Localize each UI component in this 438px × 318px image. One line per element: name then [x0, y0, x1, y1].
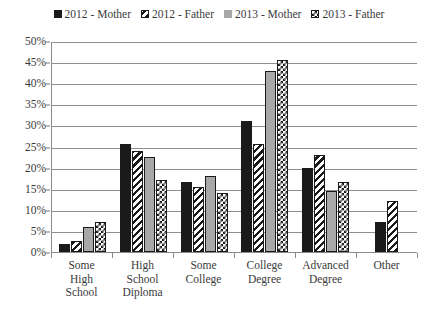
x-axis-category-line: Degree — [235, 273, 294, 287]
legend-swatch-icon — [311, 10, 319, 18]
y-tick-label: 50% — [25, 36, 46, 48]
x-axis-category-label: Other — [356, 259, 417, 300]
x-tick-mark — [51, 253, 52, 258]
legend-label: 2012 - Father — [152, 8, 214, 20]
x-axis-category-label: HighSchoolDiploma — [112, 259, 173, 300]
bar[interactable] — [302, 168, 313, 252]
bar[interactable] — [217, 193, 228, 252]
bar-group — [234, 42, 295, 252]
x-axis-category-line: College — [174, 273, 233, 287]
y-tick-label: 40% — [25, 78, 46, 90]
y-tick-mark — [46, 168, 50, 169]
legend-item-1[interactable]: 2012 - Mother — [54, 8, 131, 20]
y-tick-label: 20% — [25, 163, 46, 175]
x-axis-category-line: College — [235, 259, 294, 273]
legend-item-3[interactable]: 2013 - Mother — [224, 8, 301, 20]
bar-group — [174, 42, 235, 252]
x-axis-category-line: High — [52, 273, 111, 287]
legend-swatch-icon — [141, 10, 149, 18]
bars-layer — [52, 42, 417, 252]
bar-chart: 2012 - Mother2012 - Father2013 - Mother2… — [0, 0, 438, 318]
bar-group — [295, 42, 356, 252]
legend-swatch-icon — [224, 10, 232, 18]
y-axis: 50%45%40%35%30%25%20%15%10%5%0% — [8, 26, 50, 253]
x-axis-category-line: Diploma — [113, 286, 172, 300]
x-tick-mark — [234, 253, 235, 258]
y-tick-label: 10% — [25, 205, 46, 217]
y-tick-label: 45% — [25, 57, 46, 69]
bar-group — [52, 42, 113, 252]
plot-wrapper: 50%45%40%35%30%25%20%15%10%5%0% SomeHigh… — [0, 26, 438, 318]
legend-label: 2013 - Mother — [235, 8, 301, 20]
y-tick-label: 30% — [25, 121, 46, 133]
x-axis-category-label: SomeHighSchool — [51, 259, 112, 300]
x-axis-ticks — [51, 253, 417, 258]
x-axis-category-label: SomeCollege — [173, 259, 234, 300]
bar[interactable] — [193, 187, 204, 252]
y-tick-label: 5% — [31, 226, 46, 238]
x-tick-mark — [173, 253, 174, 258]
bar-group — [113, 42, 174, 252]
y-tick-mark — [46, 42, 50, 43]
x-axis-labels: SomeHighSchoolHighSchoolDiplomaSomeColle… — [51, 259, 417, 300]
bar[interactable] — [144, 157, 155, 252]
y-tick-mark — [46, 147, 50, 148]
x-tick-mark — [417, 253, 418, 258]
bar[interactable] — [253, 144, 264, 252]
legend-swatch-icon — [54, 10, 62, 18]
bar[interactable] — [95, 222, 106, 252]
legend-item-4[interactable]: 2013 - Father — [311, 8, 384, 20]
y-tick-label: 35% — [25, 100, 46, 112]
x-axis-category-label: AdvancedDegree — [295, 259, 356, 300]
x-axis-category-line: High — [113, 259, 172, 273]
legend-item-2[interactable]: 2012 - Father — [141, 8, 214, 20]
bar[interactable] — [277, 60, 288, 252]
bar[interactable] — [205, 176, 216, 252]
bar[interactable] — [181, 182, 192, 252]
y-tick-label: 15% — [25, 184, 46, 196]
y-tick-mark — [46, 105, 50, 106]
x-axis-category-line: Other — [357, 259, 416, 273]
chart-legend: 2012 - Mother2012 - Father2013 - Mother2… — [0, 4, 438, 24]
legend-label: 2012 - Mother — [65, 8, 131, 20]
x-axis-category-line: Some — [52, 259, 111, 273]
y-tick-mark — [46, 63, 50, 64]
x-tick-mark — [295, 253, 296, 258]
y-tick-mark — [46, 189, 50, 190]
x-tick-mark — [356, 253, 357, 258]
bar[interactable] — [132, 151, 143, 252]
bar[interactable] — [326, 191, 337, 252]
bar[interactable] — [314, 155, 325, 252]
x-axis-category-line: Some — [174, 259, 233, 273]
bar[interactable] — [156, 180, 167, 252]
x-axis-category-line: School — [52, 286, 111, 300]
y-tick-mark — [46, 253, 50, 254]
y-tick-mark — [46, 210, 50, 211]
y-tick-label: 0% — [31, 247, 46, 259]
x-axis-category-line: School — [113, 273, 172, 287]
bar[interactable] — [387, 201, 398, 252]
bar[interactable] — [375, 222, 386, 252]
x-tick-mark — [112, 253, 113, 258]
bar[interactable] — [120, 144, 131, 252]
x-axis-category-label: CollegeDegree — [234, 259, 295, 300]
x-axis-category-line: Advanced — [296, 259, 355, 273]
bar[interactable] — [338, 182, 349, 252]
bar[interactable] — [71, 241, 82, 252]
plot-area — [51, 42, 417, 253]
bar[interactable] — [241, 121, 252, 252]
x-axis-category-line: Degree — [296, 273, 355, 287]
y-tick-mark — [46, 126, 50, 127]
bar[interactable] — [59, 244, 70, 252]
bar[interactable] — [265, 71, 276, 252]
y-tick-mark — [46, 231, 50, 232]
bar-group — [356, 42, 417, 252]
bar[interactable] — [83, 227, 94, 252]
y-tick-label: 25% — [25, 142, 46, 154]
legend-label: 2013 - Father — [322, 8, 384, 20]
y-tick-mark — [46, 84, 50, 85]
